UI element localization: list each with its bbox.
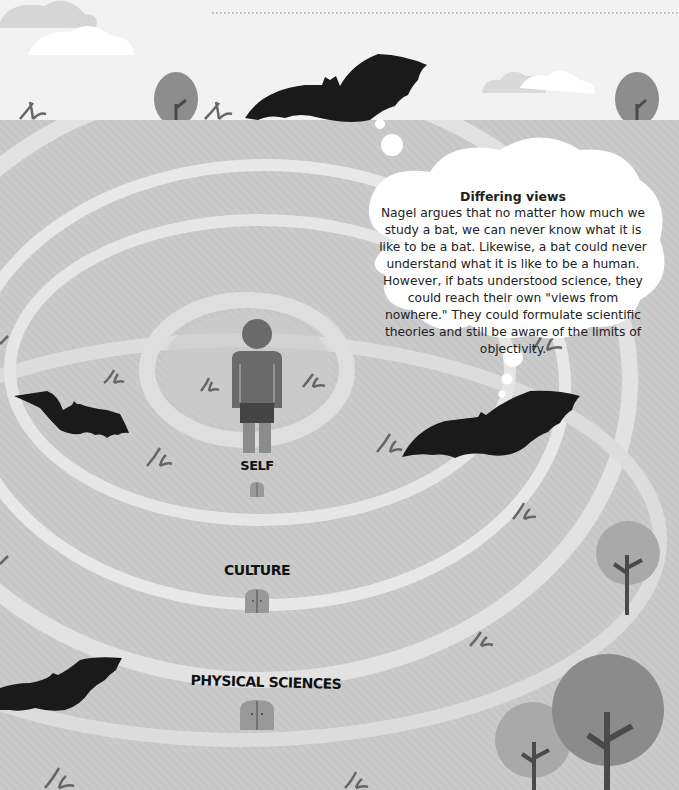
door-physical-sciences bbox=[240, 700, 274, 730]
tree-sky-right bbox=[615, 72, 659, 126]
thought-bubble-title: Differing views bbox=[378, 188, 648, 205]
label-self: SELF bbox=[230, 458, 284, 473]
door-culture bbox=[245, 589, 269, 613]
label-culture: CULTURE bbox=[200, 562, 314, 578]
tree-sky-left bbox=[154, 72, 198, 126]
thought-bubble-text: Differing views Nagel argues that no mat… bbox=[378, 188, 648, 358]
illustration-canvas bbox=[0, 0, 679, 790]
door-self bbox=[250, 482, 264, 497]
thought-bubble-body: Nagel argues that no matter how much we … bbox=[379, 206, 647, 356]
illustration-scene: Differing views Nagel argues that no mat… bbox=[0, 0, 679, 790]
